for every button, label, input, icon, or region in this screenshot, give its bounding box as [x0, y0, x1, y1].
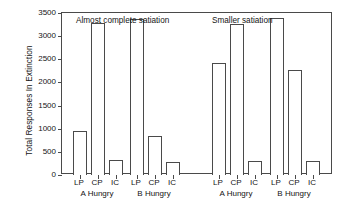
x-axis-group-label: B Hungry — [277, 189, 310, 198]
y-axis-tick-mark — [58, 13, 62, 14]
x-axis-category-label: IC — [168, 178, 176, 187]
bar — [248, 161, 262, 175]
x-axis-category-label: LP — [213, 178, 223, 187]
y-axis-tick-mark — [58, 175, 62, 176]
bar — [109, 160, 123, 175]
bar-chart-figure: Total Responses In Extinction 0500100015… — [0, 0, 347, 216]
y-axis-tick-mark — [58, 152, 62, 153]
y-axis-tick-mark — [58, 106, 62, 107]
panel-annotation: Smaller satiation — [212, 16, 273, 25]
bar — [306, 161, 320, 175]
bar — [212, 63, 226, 175]
x-axis-category-label: IC — [250, 178, 258, 187]
x-axis-category-label: IC — [308, 178, 316, 187]
bar — [230, 24, 244, 175]
panel-annotation: Almost complete satiation — [76, 16, 169, 25]
plot-inner: 0500100015002000250030003500Almost compl… — [62, 13, 331, 173]
x-axis-category-label: CP — [288, 178, 299, 187]
x-axis-category-label: CP — [148, 178, 159, 187]
y-axis-tick-label: 2000 — [22, 78, 56, 86]
bar — [148, 136, 162, 175]
bar — [73, 131, 87, 175]
x-axis-group-label: A Hungry — [81, 189, 114, 198]
y-axis-tick-mark — [58, 82, 62, 83]
plot-area: 0500100015002000250030003500Almost compl… — [61, 12, 332, 174]
y-axis-tick-label: 1500 — [22, 102, 56, 110]
x-axis-category-label: LP — [74, 178, 84, 187]
y-axis-tick-label: 0 — [22, 171, 56, 179]
bar — [166, 162, 180, 175]
bar — [91, 23, 105, 175]
y-axis-tick-mark — [58, 36, 62, 37]
y-axis-tick-label: 500 — [22, 148, 56, 156]
bar — [270, 18, 284, 175]
x-axis-category-label: LP — [271, 178, 281, 187]
x-axis-category-label: CP — [91, 178, 102, 187]
y-axis-tick-mark — [58, 129, 62, 130]
y-axis-tick-label: 2500 — [22, 55, 56, 63]
y-axis-title: Total Responses In Extinction — [25, 16, 34, 186]
x-axis-group-label: B Hungry — [137, 189, 170, 198]
x-axis-category-label: IC — [111, 178, 119, 187]
y-axis-tick-label: 1000 — [22, 125, 56, 133]
y-axis-tick-mark — [58, 59, 62, 60]
y-axis-tick-label: 3500 — [22, 9, 56, 17]
bar — [130, 19, 144, 175]
y-axis-tick-label: 3000 — [22, 32, 56, 40]
x-axis-group-label: A Hungry — [220, 189, 253, 198]
bar — [288, 70, 302, 175]
x-axis-category-label: CP — [230, 178, 241, 187]
x-axis-category-label: LP — [131, 178, 141, 187]
